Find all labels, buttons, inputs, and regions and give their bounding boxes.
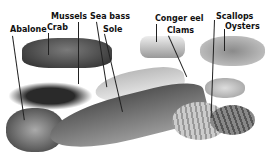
oysters-illustration	[200, 36, 265, 66]
label-abalone: Abalone	[10, 26, 47, 34]
seafood-diagram: Mussels Sea bass Abalone Crab Sole Conge…	[0, 0, 271, 164]
leader-scallops	[211, 20, 215, 118]
label-conger-eel: Conger eel	[155, 15, 204, 23]
label-crab: Crab	[47, 24, 68, 32]
scallop-shell-illustration	[210, 105, 255, 135]
leader-oysters	[224, 29, 225, 51]
conger-eel-illustration	[140, 36, 185, 58]
label-scallops: Scallops	[216, 13, 253, 21]
label-sole: Sole	[103, 26, 122, 34]
leader-conger-eel	[156, 24, 157, 42]
leader-crab	[48, 33, 49, 55]
label-mussels: Mussels	[51, 13, 87, 21]
leader-mussels	[78, 22, 79, 84]
label-sea-bass: Sea bass	[90, 13, 130, 21]
label-clams: Clams	[167, 27, 194, 35]
label-oysters: Oysters	[225, 23, 260, 31]
